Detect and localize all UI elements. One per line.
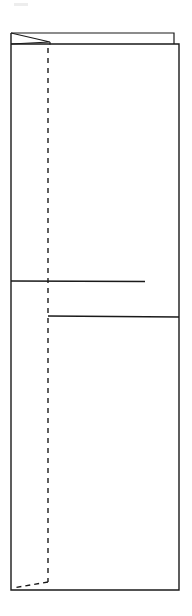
figure-canvas (0, 0, 192, 616)
figure-root (0, 0, 192, 616)
upper-crease-line (11, 281, 145, 282)
lower-crease-line (48, 316, 179, 317)
scan-artifact-mark (14, 3, 28, 6)
